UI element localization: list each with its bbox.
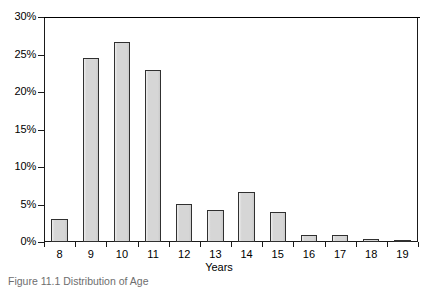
x-axis-tick xyxy=(387,242,388,247)
y-axis-tick-label: 25% xyxy=(15,49,36,60)
x-axis-tick-label: 17 xyxy=(325,248,356,260)
x-axis-tick-label: 14 xyxy=(231,248,262,260)
bar xyxy=(83,58,99,242)
figure-caption: Figure 11.1 Distribution of Age xyxy=(8,275,438,287)
x-axis-tick xyxy=(106,242,107,247)
x-axis-tick-label: 19 xyxy=(387,248,418,260)
y-axis-tick-label: 20% xyxy=(15,86,36,97)
x-axis-tick-label: 16 xyxy=(293,248,324,260)
bar xyxy=(51,219,67,242)
y-axis-tick-label: 15% xyxy=(15,124,36,135)
bar xyxy=(207,210,223,242)
x-axis-tick xyxy=(75,242,76,247)
y-axis-tick-label: 10% xyxy=(15,161,36,172)
bar xyxy=(270,212,286,242)
x-axis-tick xyxy=(169,242,170,247)
bar xyxy=(145,70,161,242)
bar xyxy=(394,240,410,242)
y-axis-tick-label: 30% xyxy=(15,11,36,22)
bar xyxy=(238,192,254,242)
x-axis-tick-label: 12 xyxy=(169,248,200,260)
x-axis-tick-label: 13 xyxy=(200,248,231,260)
x-axis-tick xyxy=(293,242,294,247)
x-axis-tick-label: 8 xyxy=(44,248,75,260)
bar xyxy=(363,239,379,242)
x-axis-tick xyxy=(138,242,139,247)
x-axis-tick-label: 9 xyxy=(75,248,106,260)
bar xyxy=(114,42,130,242)
y-axis-tick-label: 5% xyxy=(21,199,37,210)
bar-series xyxy=(44,17,418,242)
bar xyxy=(176,204,192,242)
y-axis-tick-label: 0% xyxy=(21,236,37,247)
x-axis-tick-label: 15 xyxy=(262,248,293,260)
bar xyxy=(301,235,317,242)
x-axis-tick-label: 10 xyxy=(106,248,137,260)
bar xyxy=(332,235,348,243)
x-axis-tick xyxy=(231,242,232,247)
x-axis-tick xyxy=(44,242,45,247)
x-axis-tick-label: 18 xyxy=(356,248,387,260)
x-axis-tick-label: 11 xyxy=(138,248,169,260)
x-axis-tick xyxy=(418,242,419,247)
x-axis-tick xyxy=(200,242,201,247)
x-axis-tick xyxy=(356,242,357,247)
x-axis-title: Years xyxy=(0,261,438,273)
x-axis-tick xyxy=(262,242,263,247)
x-axis-tick xyxy=(325,242,326,247)
